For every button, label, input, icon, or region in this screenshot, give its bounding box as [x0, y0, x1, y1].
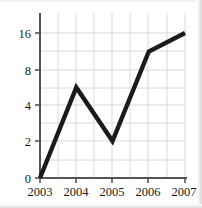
scan-edge-right [197, 0, 202, 208]
x-tick-label-2003: 2003 [28, 185, 53, 199]
x-tick-label-2007: 2007 [172, 185, 197, 199]
line-chart: 16 8 4 2 0 2003 2004 2005 2006 2007 [0, 0, 202, 208]
scan-edge-bottom [0, 204, 202, 208]
x-tick-label-2005: 2005 [100, 185, 125, 199]
x-tick-label-2006: 2006 [136, 185, 161, 199]
x-tick-label-2004: 2004 [64, 185, 90, 199]
y-tick-label-4: 4 [25, 99, 32, 113]
y-tick-label-2: 2 [25, 135, 31, 149]
y-tick-label-8: 8 [25, 64, 31, 78]
y-tick-label-0: 0 [25, 172, 31, 186]
y-tick-label-16: 16 [19, 27, 32, 41]
chart-page: 16 8 4 2 0 2003 2004 2005 2006 2007 [0, 0, 202, 208]
scan-edge-top [0, 0, 202, 2]
